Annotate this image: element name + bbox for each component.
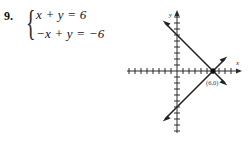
equation-first: x + y = 6 [36,7,104,22]
problem-number: 9. [4,10,13,22]
x-axis-arrowhead [236,69,242,74]
coordinate-graph: x [124,0,248,141]
intersection-point-label: (6,0) [206,79,218,87]
system-brace: { [26,5,31,41]
graph-canvas: x [124,0,248,141]
equation-second: −x + y = −6 [36,26,104,41]
intersection-point [210,68,215,73]
x-axis-label: x [235,59,240,67]
equation-system: { x + y = 6 −x + y = −6 [26,7,104,41]
equation-list: x + y = 6 −x + y = −6 [36,7,104,41]
y-axis-arrowhead [175,10,180,16]
problem-block: 9. { x + y = 6 −x + y = −6 [0,0,124,141]
y-axis-label: y [168,11,173,19]
x-axis: x [127,59,242,74]
